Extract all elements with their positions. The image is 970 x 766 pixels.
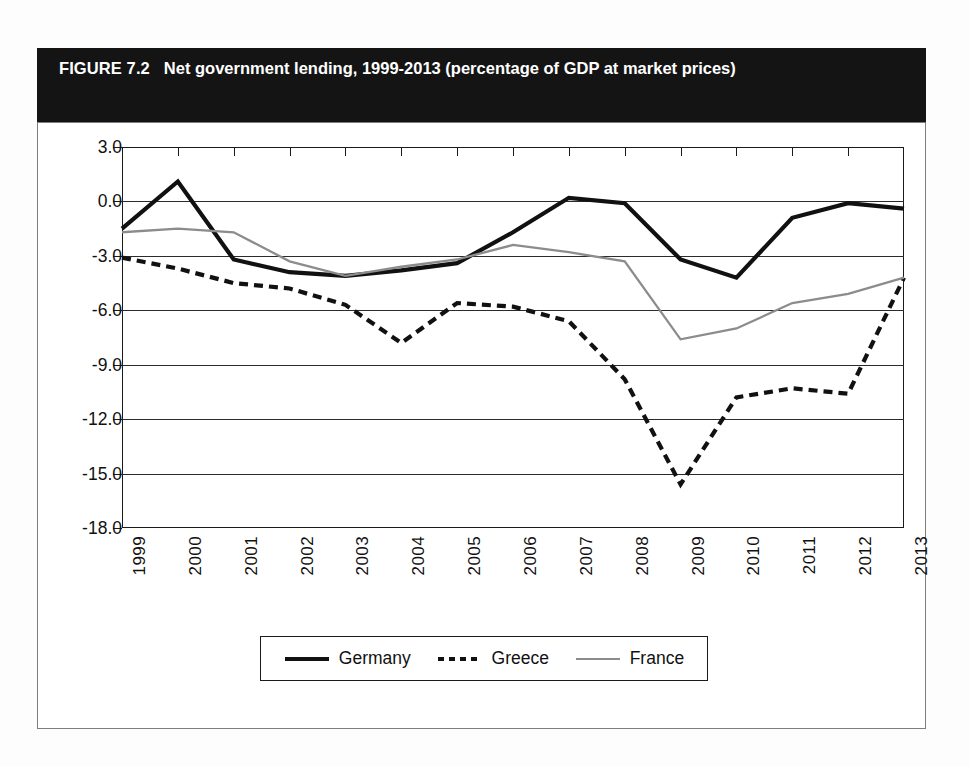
chart-area: 3.00.0-3.0-6.0-9.0-12.0-15.0-18.0 199920…: [38, 123, 925, 728]
legend-item-germany[interactable]: Germany: [284, 648, 411, 669]
figure-header-banner: FIGURE 7.2 Net government lending, 1999-…: [37, 48, 926, 122]
series-line-germany: [122, 181, 904, 277]
series-line-greece: [122, 258, 904, 485]
plot-card: 3.00.0-3.0-6.0-9.0-12.0-15.0-18.0 199920…: [37, 122, 926, 729]
legend-swatch-germany-icon: [284, 652, 330, 666]
figure-screenshot: FIGURE 7.2 Net government lending, 1999-…: [0, 0, 970, 766]
figure-number: FIGURE 7.2: [59, 57, 150, 80]
legend-swatch-greece-icon: [437, 652, 483, 666]
figure-title: Net government lending, 1999-2013 (perce…: [164, 57, 736, 80]
legend-label: Germany: [339, 648, 411, 669]
legend-label: Greece: [492, 648, 549, 669]
legend-label: France: [630, 648, 684, 669]
figure-card: FIGURE 7.2 Net government lending, 1999-…: [37, 48, 926, 729]
legend-item-greece[interactable]: Greece: [437, 648, 549, 669]
legend-item-france[interactable]: France: [575, 648, 684, 669]
legend-swatch-france-icon: [575, 652, 621, 666]
chart-legend: GermanyGreeceFrance: [260, 636, 708, 681]
